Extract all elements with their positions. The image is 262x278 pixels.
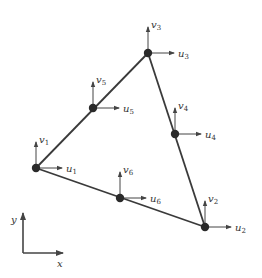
u-label-4: u4 — [205, 129, 216, 142]
node-2 — [201, 223, 209, 231]
x-axis-label: x — [57, 258, 63, 269]
v-label-6: v6 — [123, 164, 134, 177]
v-label-3: v3 — [151, 19, 161, 32]
dof-labels: u1v1u2v2u3v3u4v4u5v5u6v6 — [39, 19, 246, 235]
finite-element-diagram: u1v1u2v2u3v3u4v4u5v5u6v6 x y — [0, 0, 262, 278]
dof-arrows — [36, 27, 231, 227]
node-1 — [32, 164, 40, 172]
u-label-5: u5 — [123, 103, 134, 116]
v-label-1: v1 — [39, 134, 49, 147]
u-label-6: u6 — [150, 193, 161, 206]
v-label-4: v4 — [178, 100, 189, 113]
u-label-1: u1 — [66, 163, 77, 176]
element-nodes — [32, 49, 209, 231]
u-label-2: u2 — [235, 222, 246, 235]
coordinate-axes: x y — [10, 213, 63, 269]
v-label-5: v5 — [96, 74, 106, 87]
node-4 — [171, 130, 179, 138]
v-label-2: v2 — [208, 193, 218, 206]
node-6 — [116, 194, 124, 202]
diagram-svg: u1v1u2v2u3v3u4v4u5v5u6v6 x y — [0, 0, 262, 278]
node-3 — [144, 49, 152, 57]
node-5 — [89, 104, 97, 112]
y-axis-label: y — [10, 214, 17, 225]
u-label-3: u3 — [178, 48, 189, 61]
